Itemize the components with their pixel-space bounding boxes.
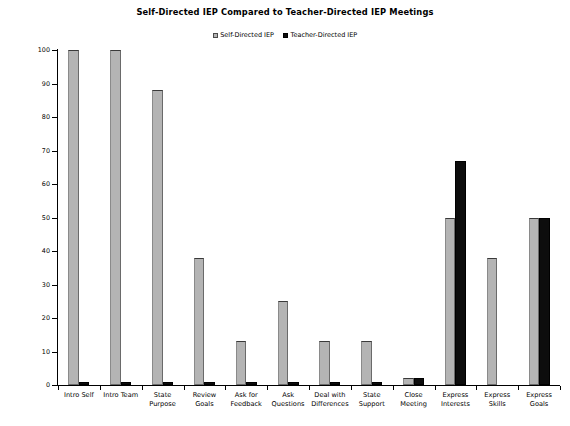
y-axis-tick-label: 70	[26, 147, 50, 153]
x-axis-category-label: ExpressGoals	[514, 391, 564, 410]
chart-title: Self-Directed IEP Compared to Teacher-Di…	[0, 7, 570, 18]
y-axis-tick-label: 100	[26, 47, 50, 53]
y-axis-tick-label: 0	[26, 382, 50, 388]
bar-teacher-directed	[246, 382, 257, 385]
y-axis-tick-label: 50	[26, 214, 50, 220]
x-axis-tick	[267, 386, 268, 390]
x-axis-tick	[100, 386, 101, 390]
bar-teacher-directed	[539, 218, 550, 386]
y-axis-tick-label: 10	[26, 348, 50, 354]
legend-entry-self-directed: Self-Directed IEP	[213, 31, 274, 40]
legend-swatch-self-directed	[213, 33, 218, 38]
bar-group	[319, 50, 340, 385]
bar-group	[278, 50, 299, 385]
x-axis-tick	[225, 386, 226, 390]
bar-teacher-directed	[121, 382, 132, 385]
bar-teacher-directed	[372, 382, 383, 385]
legend-swatch-teacher-directed	[283, 33, 288, 38]
bar-chart: Self-Directed IEP Compared to Teacher-Di…	[0, 0, 570, 426]
bar-teacher-directed	[455, 161, 466, 385]
y-axis-tick-label: 20	[26, 315, 50, 321]
bar-teacher-directed	[204, 382, 215, 385]
y-axis-tick-label: 90	[26, 80, 50, 86]
bar-group	[68, 50, 89, 385]
bar-self-directed	[278, 301, 289, 385]
y-axis-tick	[52, 285, 57, 286]
y-axis-tick	[52, 184, 57, 185]
y-axis-tick-label: 80	[26, 114, 50, 120]
bar-self-directed	[68, 50, 79, 385]
bar-self-directed	[487, 258, 498, 385]
bar-group	[529, 50, 550, 385]
bar-group	[403, 50, 424, 385]
bar-group	[110, 50, 131, 385]
bar-teacher-directed	[330, 382, 341, 385]
bar-teacher-directed	[288, 382, 299, 385]
x-axis-tick	[58, 386, 59, 390]
y-axis-tick-label: 30	[26, 281, 50, 287]
bar-teacher-directed	[79, 382, 90, 385]
bar-group	[236, 50, 257, 385]
y-axis-tick	[52, 151, 57, 152]
y-axis-title: Percent of IEP Meeting Leadership Steps	[10, 0, 24, 50]
x-axis-tick	[309, 386, 310, 390]
bar-self-directed	[403, 378, 414, 385]
x-axis-tick	[560, 386, 561, 390]
y-axis-tick	[52, 117, 57, 118]
y-axis-tick	[52, 352, 57, 353]
bar-teacher-directed	[163, 382, 174, 385]
y-axis-tick	[52, 50, 57, 51]
y-axis-tick	[52, 385, 57, 386]
y-axis-tick-label: 40	[26, 248, 50, 254]
bar-self-directed	[236, 341, 247, 385]
bar-group	[194, 50, 215, 385]
legend-label-self-directed: Self-Directed IEP	[220, 31, 274, 40]
x-axis-tick	[435, 386, 436, 390]
bar-group	[445, 50, 466, 385]
legend-label-teacher-directed: Teacher-Directed IEP	[291, 31, 358, 40]
x-axis-tick	[518, 386, 519, 390]
bar-group	[487, 50, 508, 385]
x-axis-tick	[351, 386, 352, 390]
bar-self-directed	[152, 90, 163, 385]
chart-legend: Self-Directed IEP Teacher-Directed IEP	[0, 31, 570, 40]
plot-area	[58, 50, 560, 385]
bar-self-directed	[361, 341, 372, 385]
bar-self-directed	[529, 218, 540, 386]
y-axis-tick	[52, 218, 57, 219]
x-axis-tick	[476, 386, 477, 390]
x-axis-tick	[393, 386, 394, 390]
x-axis-tick	[142, 386, 143, 390]
y-axis-tick	[52, 84, 57, 85]
bar-teacher-directed	[414, 378, 425, 385]
bar-group	[361, 50, 382, 385]
bar-group	[152, 50, 173, 385]
bar-self-directed	[445, 218, 456, 386]
y-axis-tick	[52, 318, 57, 319]
bar-self-directed	[319, 341, 330, 385]
y-axis-tick-label: 60	[26, 181, 50, 187]
x-axis-category-labels: Intro SelfIntro TeamStatePurposeReviewGo…	[58, 391, 560, 423]
bar-self-directed	[110, 50, 121, 385]
bar-self-directed	[194, 258, 205, 385]
legend-entry-teacher-directed: Teacher-Directed IEP	[283, 31, 357, 40]
y-axis-tick	[52, 251, 57, 252]
x-axis-tick	[184, 386, 185, 390]
